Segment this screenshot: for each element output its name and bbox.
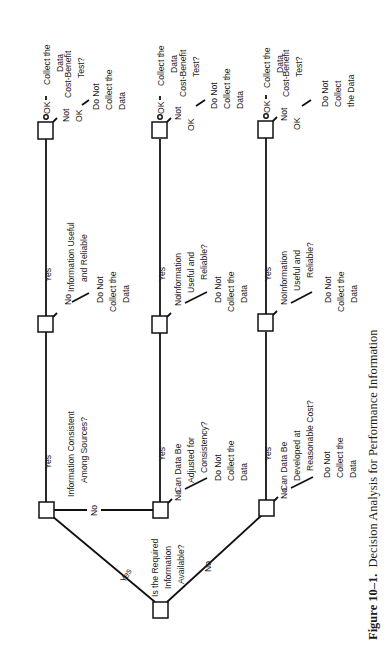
cost-b-not-ok-outcome: Do Not Collect the Data bbox=[209, 68, 245, 109]
svg-text:OK: OK bbox=[74, 109, 84, 122]
decision-tree-diagram: Is the Required Information Available? Y… bbox=[0, 0, 385, 656]
svg-text:Available?: Available? bbox=[176, 544, 186, 584]
svg-text:Reliable?: Reliable? bbox=[199, 244, 209, 280]
cost-b-ok-node bbox=[158, 115, 162, 119]
cost-c-not-ok-outcome: Do Not Collect the Data bbox=[320, 74, 356, 107]
svg-text:Cost-Benefit: Cost-Benefit bbox=[63, 50, 73, 98]
svg-text:OK: OK bbox=[186, 118, 196, 131]
svg-text:Information: Information bbox=[279, 251, 289, 294]
cost-a-ok-label: OK bbox=[42, 101, 52, 114]
root-no-label: No bbox=[203, 561, 213, 572]
useful-a-no-outcome: Do Not Collect the Data bbox=[95, 271, 131, 312]
cost-c-ok-label: OK bbox=[262, 100, 272, 113]
cost-a-not-ok-label: Not OK bbox=[61, 108, 84, 122]
cost-a-decision-box bbox=[38, 122, 53, 139]
cost-c-ok-node bbox=[264, 114, 268, 118]
svg-text:Information: Information bbox=[163, 546, 173, 589]
develop-yes-label: Yes bbox=[263, 447, 273, 461]
svg-text:Test?: Test? bbox=[191, 56, 201, 77]
svg-text:Do Not: Do Not bbox=[213, 454, 223, 481]
svg-text:Cost-Benefit: Cost-Benefit bbox=[281, 49, 291, 97]
svg-text:Collect the: Collect the bbox=[104, 69, 114, 110]
svg-text:Data: Data bbox=[235, 91, 245, 109]
useful-b-decision-box bbox=[152, 316, 167, 333]
adjust-no-outcome: Do Not Collect the Data bbox=[213, 440, 249, 481]
svg-text:Data: Data bbox=[239, 285, 249, 303]
svg-text:Collect the: Collect the bbox=[156, 45, 166, 86]
svg-text:Collect the: Collect the bbox=[108, 271, 118, 312]
svg-text:Do Not: Do Not bbox=[322, 451, 332, 478]
useful-b-yes-label: Yes bbox=[157, 267, 167, 281]
svg-text:Among Sources?: Among Sources? bbox=[79, 417, 89, 483]
cost-a-notok-tick bbox=[82, 100, 89, 105]
figure-caption-number: Figure 10–1. bbox=[366, 574, 380, 640]
figure-caption: Figure 10–1.Decision Analysis for Perfor… bbox=[366, 329, 380, 640]
root-question: Is the Required Information Available? bbox=[150, 538, 186, 597]
root-yes-line bbox=[52, 516, 155, 602]
cost-a-question: Cost-Benefit Test? bbox=[63, 50, 86, 98]
cost-c-not-ok-label: Not OK bbox=[279, 107, 302, 130]
svg-text:Do Not: Do Not bbox=[95, 276, 105, 303]
adjust-decision-box bbox=[153, 502, 168, 518]
develop-question: Can Data Be Developed at Reasonable Cost… bbox=[279, 400, 315, 491]
svg-text:Information: Information bbox=[173, 253, 183, 296]
svg-text:Collect the: Collect the bbox=[42, 44, 52, 85]
useful-c-yes-label: Yes bbox=[263, 267, 273, 281]
svg-text:Data: Data bbox=[349, 285, 359, 303]
cost-b-notok-tick bbox=[196, 100, 205, 106]
develop-no-label: No bbox=[279, 488, 289, 499]
useful-b-no-label: No bbox=[173, 295, 183, 306]
svg-text:Is the Required: Is the Required bbox=[150, 538, 160, 597]
svg-text:Data: Data bbox=[348, 460, 358, 478]
useful-c-question: Information Useful and Reliable? bbox=[279, 242, 315, 294]
adjust-no-label: No bbox=[173, 490, 183, 501]
cost-b-ok-outcome: Collect the Data bbox=[156, 45, 179, 86]
useful-b-question: Information Useful and Reliable? bbox=[173, 244, 209, 296]
develop-decision-box bbox=[259, 500, 274, 516]
useful-c-no-outcome: Do Not Collect the Data bbox=[323, 271, 359, 312]
svg-text:Collect the: Collect the bbox=[335, 437, 345, 478]
useful-b-no-outcome: Do Not Collect the Data bbox=[213, 271, 249, 312]
svg-text:Cost-Benefit: Cost-Benefit bbox=[178, 49, 188, 97]
cost-b-decision-box bbox=[152, 122, 167, 138]
svg-text:the Data: the Data bbox=[346, 74, 356, 107]
cost-a-ok-outcome: Collect the Data bbox=[42, 44, 65, 85]
svg-text:Collect the: Collect the bbox=[222, 68, 232, 109]
svg-text:Collect the: Collect the bbox=[226, 440, 236, 481]
svg-text:Reliable?: Reliable? bbox=[305, 242, 315, 278]
svg-text:Test?: Test? bbox=[76, 57, 86, 78]
cost-b-ok-label: OK bbox=[156, 101, 166, 114]
develop-no-outcome: Do Not Collect the Data bbox=[322, 437, 358, 478]
cost-a-not-ok-outcome: Do Not Collect the Data bbox=[91, 69, 127, 110]
adjust-question: Can Data Be Adjusted for Consistency? bbox=[173, 421, 209, 493]
cost-c-question: Cost-Benefit Test? bbox=[281, 49, 304, 97]
svg-text:Collect the: Collect the bbox=[262, 47, 272, 88]
connector-lines bbox=[46, 95, 313, 602]
svg-text:and Reliable: and Reliable bbox=[79, 234, 89, 282]
useful-a-question: Information Useful and Reliable bbox=[66, 222, 89, 292]
svg-text:Data: Data bbox=[121, 285, 131, 303]
useful-a-decision-box bbox=[38, 316, 53, 332]
useful-a-no-line bbox=[72, 293, 89, 302]
svg-text:Can Data Be: Can Data Be bbox=[173, 444, 183, 493]
useful-c-decision-box bbox=[258, 314, 273, 331]
svg-text:Collect the: Collect the bbox=[226, 271, 236, 312]
svg-text:Not: Not bbox=[279, 107, 289, 121]
adjust-yes-label: Yes bbox=[157, 447, 167, 461]
svg-text:Consistency?: Consistency? bbox=[199, 421, 209, 473]
useful-a-no-label: No bbox=[63, 294, 73, 305]
svg-text:Not: Not bbox=[173, 106, 183, 120]
svg-text:Information Consistent: Information Consistent bbox=[66, 410, 76, 497]
svg-text:Developed at: Developed at bbox=[292, 430, 302, 481]
consistent-decision-box bbox=[39, 502, 54, 518]
svg-text:Do Not: Do Not bbox=[323, 276, 333, 303]
svg-text:Do Not: Do Not bbox=[320, 80, 330, 107]
svg-text:Test?: Test? bbox=[294, 56, 304, 77]
svg-text:Useful and: Useful and bbox=[292, 250, 302, 291]
root-decision-box bbox=[153, 602, 168, 618]
cost-c-decision-box bbox=[258, 121, 273, 138]
svg-text:Reasonable Cost?: Reasonable Cost? bbox=[305, 400, 315, 471]
useful-c-no-label: No bbox=[279, 294, 289, 305]
consistent-question: Information Consistent Among Sources? bbox=[66, 410, 89, 497]
useful-c-no-line bbox=[291, 292, 312, 303]
